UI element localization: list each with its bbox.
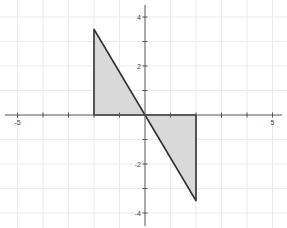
axes (5, 5, 282, 226)
y-tick-label: -4 (135, 210, 141, 217)
y-tick-label: 2 (137, 63, 141, 70)
x-tick-label: 5 (271, 119, 275, 126)
graph-plot: -5542-2-4 (0, 0, 287, 228)
x-tick-label: -5 (14, 119, 20, 126)
y-tick-label: -2 (135, 161, 141, 168)
y-tick-label: 4 (137, 14, 141, 21)
